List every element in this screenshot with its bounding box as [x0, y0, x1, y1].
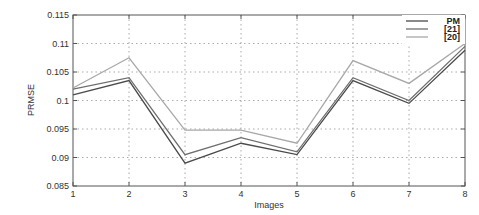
series-line-PM: [73, 50, 465, 163]
x-tick-label: 6: [350, 189, 355, 199]
y-tick-label: 0.085: [46, 181, 69, 191]
x-tick-label: 5: [294, 189, 299, 199]
y-tick-label: 0.11: [52, 39, 69, 49]
y-tick-label: 0.1: [56, 96, 69, 106]
y-tick-label: 0.09: [51, 153, 69, 163]
data-series: [73, 44, 465, 164]
series-line-20: [73, 44, 465, 144]
x-tick-label: 1: [70, 189, 75, 199]
x-tick-label: 4: [238, 189, 243, 199]
y-tick-label: 0.115: [47, 10, 69, 20]
y-tick-label: 0.105: [46, 67, 69, 77]
legend: PM[21][20]: [402, 15, 465, 44]
x-tick-label: 2: [126, 189, 131, 199]
line-chart: 0.0850.090.0950.10.1050.110.115 12345678…: [0, 0, 479, 215]
y-axis-label: PRMSE: [26, 84, 36, 116]
x-tick-label: 7: [406, 189, 411, 199]
x-axis-label: Images: [254, 200, 284, 210]
legend-label: [20]: [444, 32, 460, 42]
x-tick-label: 8: [462, 189, 467, 199]
y-tick-label: 0.095: [46, 124, 69, 134]
x-tick-label: 3: [182, 189, 187, 199]
